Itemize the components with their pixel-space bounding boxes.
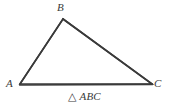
triangle-abc-shape xyxy=(20,19,152,84)
edge-ca xyxy=(20,84,152,85)
figure-caption: △ABC xyxy=(0,91,169,102)
triangle-symbol-icon: △ xyxy=(68,90,76,102)
edge-ab xyxy=(20,19,63,84)
geometry-figure: B A C △ABC xyxy=(0,0,169,111)
edge-bc xyxy=(63,19,152,84)
vertex-label-a: A xyxy=(6,78,13,89)
caption-triangle-name: ABC xyxy=(80,90,101,102)
vertex-label-b: B xyxy=(57,2,64,13)
vertex-label-c: C xyxy=(154,78,161,89)
